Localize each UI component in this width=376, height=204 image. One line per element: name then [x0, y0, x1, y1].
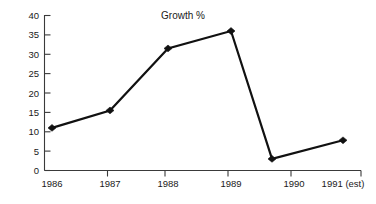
y-label-30: 30 [28, 49, 39, 60]
y-label-5: 5 [34, 146, 39, 157]
x-label-1989: 1989 [220, 178, 241, 189]
x-label-1990: 1990 [283, 178, 304, 189]
y-label-0: 0 [34, 165, 39, 176]
x-label-1991-est: 1991 (est) [322, 178, 365, 189]
growth-percent-line-chart: Growth % 0 5 10 15 20 25 30 35 40 [0, 0, 376, 204]
y-label-40: 40 [28, 10, 39, 21]
y-label-10: 10 [28, 126, 39, 137]
chart-background [0, 0, 376, 204]
y-label-35: 35 [28, 29, 39, 40]
chart-canvas: Growth % 0 5 10 15 20 25 30 35 40 [0, 0, 376, 204]
x-label-1988: 1988 [157, 178, 178, 189]
x-label-1986: 1986 [41, 178, 62, 189]
chart-title: Growth % [161, 10, 205, 21]
y-label-15: 15 [28, 107, 39, 118]
y-label-25: 25 [28, 68, 39, 79]
y-label-20: 20 [28, 88, 39, 99]
x-label-1987: 1987 [99, 178, 120, 189]
